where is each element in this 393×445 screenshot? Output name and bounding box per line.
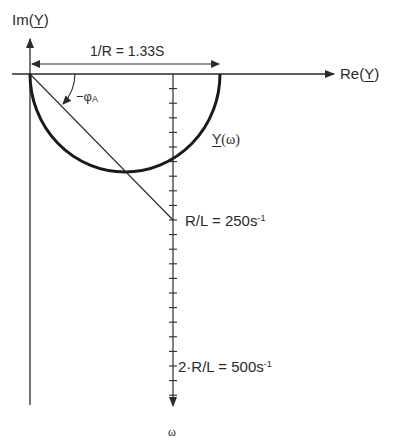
rl-label-text: R/L = 250s <box>185 212 257 229</box>
locus-label-arg: (ω) <box>221 132 240 147</box>
real-axis-label: Re(Y) <box>340 66 379 81</box>
two-rl-label-text: 2·R/L = 500s <box>178 358 264 375</box>
real-label-var: Y <box>364 65 374 82</box>
imag-label-suffix: ) <box>44 11 49 28</box>
imag-label-var: Y <box>34 11 44 28</box>
angle-reference-line <box>30 74 173 220</box>
two-rl-label-sup: -1 <box>264 359 272 369</box>
conductance-label: 1/R = 1.33S <box>90 44 164 58</box>
omega-axis-label: ω <box>168 426 176 438</box>
angle-label-text: −φ <box>76 89 92 104</box>
rl-frequency-label: R/L = 250s-1 <box>185 213 265 228</box>
rl-label-sup: -1 <box>257 213 265 223</box>
phase-angle-label: −φA <box>76 90 98 104</box>
admittance-semicircle <box>30 74 220 172</box>
two-rl-frequency-label: 2·R/L = 500s-1 <box>178 359 272 374</box>
real-label-suffix: ) <box>374 65 379 82</box>
locus-label: Y(ω) <box>212 132 240 147</box>
imaginary-axis-label: Im(Y) <box>12 12 49 27</box>
angle-label-sub: A <box>92 94 98 104</box>
phase-angle-arc <box>63 74 75 104</box>
imag-label-prefix: Im( <box>12 11 34 28</box>
real-label-prefix: Re( <box>340 65 364 82</box>
conductance-left-arrowhead <box>31 60 40 68</box>
locus-label-var: Y <box>212 131 221 147</box>
